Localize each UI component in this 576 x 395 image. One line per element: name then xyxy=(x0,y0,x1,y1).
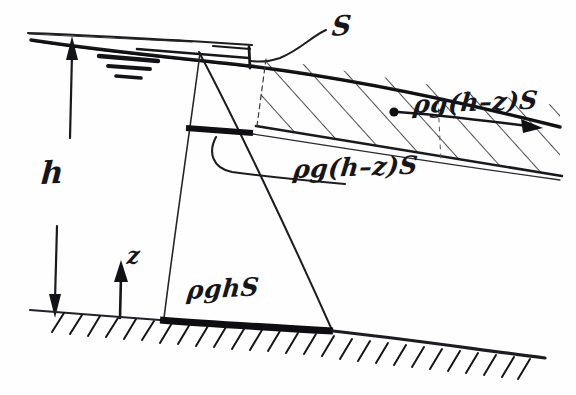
label-force-bottom: ρghS xyxy=(186,274,260,303)
hand-drawn-diagram xyxy=(0,0,576,395)
label-force-band: ρg(h–z)S xyxy=(412,88,539,117)
figure-canvas: h z S ρg(h–z)S ρg(h–z)S ρghS xyxy=(0,0,576,395)
label-z-axis: z xyxy=(126,242,141,267)
label-area-s: S xyxy=(331,11,353,40)
label-depth-h: h xyxy=(40,157,65,189)
water-surface-symbol xyxy=(99,56,158,78)
leader-curve-S xyxy=(251,30,326,62)
label-force-mid: ρg(h–z)S xyxy=(292,153,419,182)
